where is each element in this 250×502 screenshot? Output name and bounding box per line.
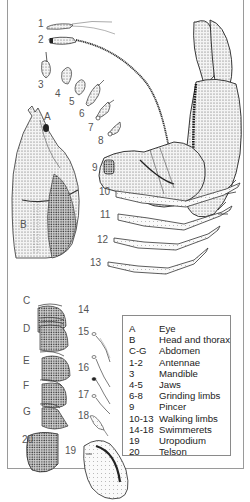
label-3: 3 bbox=[38, 80, 44, 90]
pincer-9 bbox=[99, 20, 241, 217]
grinding-limb-6 bbox=[86, 80, 104, 106]
legend-row: 14-18Swimmerets bbox=[129, 424, 230, 435]
label-12: 12 bbox=[97, 235, 108, 245]
label-6: 6 bbox=[79, 109, 85, 119]
legend-row: 10-13Walking limbs bbox=[129, 413, 230, 424]
eye-icon bbox=[43, 124, 49, 132]
legend-row: AEye bbox=[129, 323, 230, 334]
label-4: 4 bbox=[55, 89, 61, 99]
legend-key: C-G bbox=[129, 345, 159, 356]
mandible-3 bbox=[42, 52, 51, 78]
label-d: D bbox=[23, 324, 30, 334]
label-a: A bbox=[44, 112, 51, 122]
legend-label: Grinding limbs bbox=[159, 390, 230, 401]
label-17: 17 bbox=[78, 390, 89, 400]
label-b: B bbox=[20, 220, 27, 230]
legend-row: BHead and thorax bbox=[129, 334, 230, 345]
swimmeret-18 bbox=[90, 416, 108, 436]
jaw-4 bbox=[62, 67, 72, 84]
legend-key: A bbox=[129, 323, 159, 334]
grinding-limb-7 bbox=[96, 100, 114, 120]
label-13: 13 bbox=[90, 258, 101, 268]
swimmeret-16 bbox=[92, 378, 110, 405]
legend-label: Walking limbs bbox=[159, 413, 230, 424]
legend-row: 9Pincer bbox=[129, 401, 230, 412]
label-1: 1 bbox=[38, 19, 44, 29]
grinding-limb-8 bbox=[108, 122, 121, 136]
legend-label: Antennae bbox=[159, 357, 230, 368]
label-f: F bbox=[23, 381, 29, 391]
label-11: 11 bbox=[100, 210, 110, 220]
legend-key: 10-13 bbox=[129, 413, 159, 424]
swimmeret-17 bbox=[92, 395, 110, 415]
antenna-1 bbox=[47, 21, 115, 34]
legend-key: B bbox=[129, 334, 159, 345]
label-9: 9 bbox=[92, 163, 98, 173]
legend-key: 4-5 bbox=[129, 379, 159, 390]
label-20: 20 bbox=[22, 435, 33, 445]
head-thorax-body bbox=[12, 106, 79, 258]
label-10: 10 bbox=[99, 187, 110, 197]
swimmeret-15 bbox=[92, 356, 110, 388]
legend-key: 3 bbox=[129, 368, 159, 379]
legend-row: 20Telson bbox=[129, 446, 230, 457]
legend-row: C-GAbdomen bbox=[129, 345, 230, 356]
legend-label: Head and thorax bbox=[159, 334, 230, 345]
legend-row: 19Uropodium bbox=[129, 435, 230, 446]
legend-label: Eye bbox=[159, 323, 230, 334]
legend-label: Pincer bbox=[159, 401, 230, 412]
label-18: 18 bbox=[78, 411, 89, 421]
legend-row: 1-2Antennae bbox=[129, 357, 230, 368]
legend-box: AEye BHead and thorax C-GAbdomen 1-2Ante… bbox=[122, 315, 231, 456]
label-2: 2 bbox=[38, 35, 44, 45]
legend-label: Swimmerets bbox=[159, 424, 230, 435]
label-e: E bbox=[23, 356, 30, 366]
label-c: C bbox=[23, 296, 30, 306]
legend-label: Jaws bbox=[159, 379, 230, 390]
legend-key: 14-18 bbox=[129, 424, 159, 435]
legend-key: 9 bbox=[129, 401, 159, 412]
legend-key: 1-2 bbox=[129, 357, 159, 368]
legend-row: 3Mandible bbox=[129, 368, 230, 379]
legend-label: Telson bbox=[159, 446, 230, 457]
legend-key: 19 bbox=[129, 435, 159, 446]
legend-key: 20 bbox=[129, 446, 159, 457]
label-16: 16 bbox=[78, 363, 89, 373]
label-7: 7 bbox=[88, 123, 94, 133]
jaw-5 bbox=[75, 80, 85, 95]
legend-label: Abdomen bbox=[159, 345, 230, 356]
legend-row: 4-5Jaws bbox=[129, 379, 230, 390]
legend-row: 6-8Grinding limbs bbox=[129, 390, 230, 401]
label-14: 14 bbox=[78, 305, 89, 315]
label-15: 15 bbox=[78, 327, 89, 337]
walking-limb-13 bbox=[108, 248, 208, 274]
label-g: G bbox=[23, 407, 31, 417]
walking-limb-12 bbox=[114, 226, 220, 250]
label-8: 8 bbox=[98, 136, 104, 146]
legend-label: Mandible bbox=[159, 368, 230, 379]
legend-key: 6-8 bbox=[129, 390, 159, 401]
label-19: 19 bbox=[65, 446, 76, 456]
label-5: 5 bbox=[69, 97, 75, 107]
legend-label: Uropodium bbox=[159, 435, 230, 446]
abdomen-segment-e bbox=[40, 352, 70, 382]
